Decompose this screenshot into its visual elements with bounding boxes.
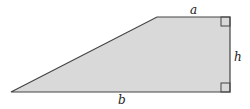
label-b: b xyxy=(118,93,126,107)
trapezoid-diagram: a h b xyxy=(0,0,250,109)
trapezoid-shape xyxy=(11,17,230,92)
label-h: h xyxy=(234,50,242,64)
label-a: a xyxy=(190,3,197,17)
